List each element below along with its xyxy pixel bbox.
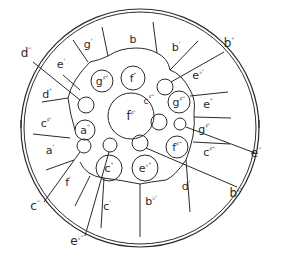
note-label-csharp2: c♯" [203,145,215,159]
callout-label-e3: e‴ [251,146,262,160]
note-circle-a2: a" [75,120,95,140]
leader-line [44,152,80,202]
note-label-g1: g' [84,37,93,51]
inner-labels: c♯‴ [144,93,155,106]
target-circle-c3_target [77,139,91,153]
note-label-b1: b' [172,40,181,54]
inner-circle-notes: g♯"f"f♯'g♯‴a"c"e♭"f♯" [75,66,190,181]
note-label-gsharp2: g♯" [96,74,109,88]
note-label-csharp3_label: c♯‴ [144,93,155,106]
note-label-bflat1: b♭' [145,194,157,208]
outer-ring-notes: g'bb'e♭'e"g♯'c♯"d'b♭'c'f'a'c♯'d"e' [41,33,215,213]
note-label-d1: d' [182,179,191,193]
callout-label-eflat3: e♭‴ [70,234,83,248]
target-circle-b2_target [157,79,173,95]
note-label-f2: f" [130,71,137,85]
target-circle-e3_target [174,118,186,130]
callout-label-d3: d‴ [21,46,32,60]
note-label-fsharp2: f♯" [172,140,182,154]
note-label-b: b [130,33,137,46]
note-label-fsharp1_center: f♯' [127,109,136,123]
note-label-eflat2: e♭" [139,161,152,175]
note-label-f1: f' [65,175,71,189]
note-label-a1: a' [46,143,55,157]
note-circle-c2: c" [96,155,122,181]
note-label-csharp1: c♯' [41,116,52,130]
note-label-gsharp3: g♯‴ [172,95,185,109]
target-circle-d3_target [78,97,94,113]
callout-label-b2: b" [224,36,235,50]
note-label-c1: c' [103,199,111,213]
note-label-e1: e' [57,57,66,71]
callout-bflat2: b♭" [146,148,243,200]
leader-line [186,127,255,153]
note-label-d2: d" [42,87,52,101]
note-label-a2: a" [80,123,90,137]
target-circle-eflat3_target [103,138,117,152]
note-circle-f2: f" [121,66,145,90]
callout-label-bflat2: b♭" [229,186,242,200]
note-circle-gsharp3: g♯‴ [168,91,190,113]
callout-label-c3: c‴ [30,199,40,213]
leader-line [85,152,109,236]
note-circle-eflat2: e♭" [132,155,158,181]
note-circle-fsharp2: f♯" [166,136,188,158]
note-label-eflat1: e♭' [192,68,204,82]
steel-pan-diagram: g'bb'e♭'e"g♯'c♯"d'b♭'c'f'a'c♯'d"e' g♯"f"… [0,0,284,259]
note-label-e2: e" [203,97,213,111]
note-circle-gsharp2: g♯" [91,70,113,92]
